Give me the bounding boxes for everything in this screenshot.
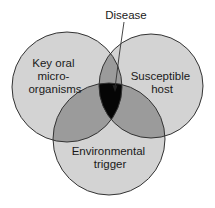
disease-label: Disease <box>105 9 147 21</box>
venn-diagram: Disease Key oral micro- organisms Suscep… <box>0 0 215 208</box>
